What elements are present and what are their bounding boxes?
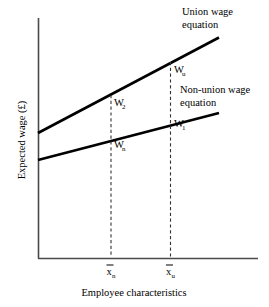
annotation-non-union-line2: equation xyxy=(180,97,217,108)
figure-background xyxy=(0,0,269,307)
y-axis-label: Expected wage (£) xyxy=(16,100,28,179)
annotation-union-line1: Union wage xyxy=(182,6,233,17)
point-label-wn-sub: n xyxy=(122,145,126,153)
point-label-w2-sub: 2 xyxy=(122,103,126,111)
point-label-w1-sub: 1 xyxy=(182,124,186,132)
annotation-non-union-line1: Non-union wage xyxy=(180,84,251,95)
x-axis-label: Employee characteristics xyxy=(81,287,186,298)
x-tick-sub-u: u xyxy=(172,272,176,280)
annotation-union-line2: equation xyxy=(182,19,219,30)
wage-equation-diagram: Union wage equation Non-union wage equat… xyxy=(0,0,269,307)
point-label-wu-sub: u xyxy=(182,70,186,78)
x-tick-sub-n: n xyxy=(112,272,116,280)
